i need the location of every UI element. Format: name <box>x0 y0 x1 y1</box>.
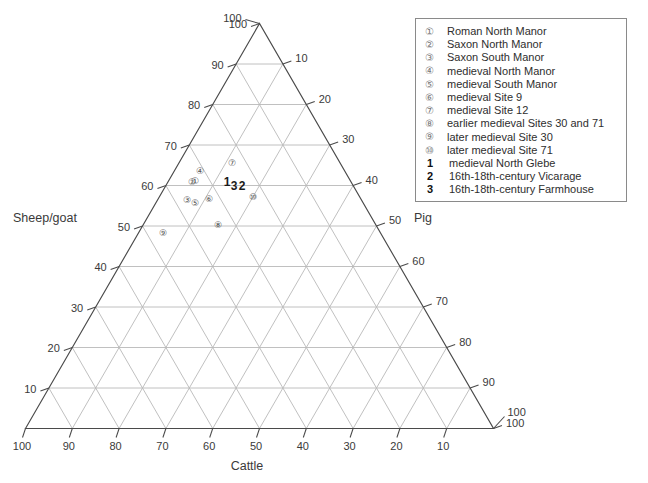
tick-label-pig-40: 40 <box>366 174 378 186</box>
legend-item: ⑤medieval South Manor <box>416 78 626 91</box>
point-7: ⑦ <box>228 158 236 168</box>
axis-title-cattle: Cattle <box>231 459 264 473</box>
point-bold-3: 3 <box>231 179 238 193</box>
tick-label-pig-60: 60 <box>412 255 424 267</box>
point-2: ② <box>188 177 196 187</box>
legend-label-3: Saxon South Manor <box>447 52 544 63</box>
legend-item: ②Saxon North Manor <box>416 38 626 51</box>
legend-item: ③Saxon South Manor <box>416 51 626 64</box>
legend-item: ⑦medieval Site 12 <box>416 104 626 117</box>
point-bold-1: 1 <box>224 175 231 189</box>
legend-label-8: earlier medieval Sites 30 and 71 <box>447 118 604 129</box>
tick-label-pig-20: 20 <box>319 93 331 105</box>
tick-label-sheepgoat-30: 30 <box>71 302 83 314</box>
gridlines <box>49 64 470 429</box>
legend-marker-4: ④ <box>425 66 447 76</box>
tick-label-pig-70: 70 <box>436 295 448 307</box>
legend-label-5: medieval South Manor <box>447 79 557 90</box>
ternary-plot-root: 1009080706050403020101020304050607080901… <box>0 0 648 483</box>
point-8: ⑧ <box>214 220 222 230</box>
tick-label-sheepgoat-90: 90 <box>211 59 223 71</box>
tick-label-cattle-20: 20 <box>390 440 402 452</box>
tick-label-pig-50: 50 <box>389 214 401 226</box>
axis-title-sheep-goat: Sheep/goat <box>13 211 77 225</box>
point-5: ⑤ <box>191 198 199 208</box>
legend-item: ①Roman North Manor <box>416 25 626 38</box>
tick-label-cattle-30: 30 <box>343 440 355 452</box>
tick-label-pig-80: 80 <box>459 336 471 348</box>
tick-label-sheepgoat-50: 50 <box>118 221 130 233</box>
legend-label-7: medieval Site 12 <box>447 105 528 116</box>
tick-label-sheepgoat-60: 60 <box>141 180 153 192</box>
tick-label-cattle-70: 70 <box>156 440 168 452</box>
tick-label-cattle-50: 50 <box>250 440 262 452</box>
legend-marker-1: ① <box>425 27 447 37</box>
legend-label-2: Saxon North Manor <box>447 39 542 50</box>
legend-marker-9: ⑨ <box>425 132 447 142</box>
tick-label-pig-100: 100 <box>506 417 524 429</box>
tick-label-cattle-90: 90 <box>63 440 75 452</box>
tick-label-sheepgoat-apex-100: 100 <box>223 12 241 24</box>
legend-marker-2: ② <box>425 40 447 50</box>
legend-item: 216th-18th-century Vicarage <box>416 170 626 183</box>
tick-label-cattle-40: 40 <box>297 440 309 452</box>
tick-label-sheepgoat-20: 20 <box>48 342 60 354</box>
legend-item: ⑧earlier medieval Sites 30 and 71 <box>416 117 626 130</box>
legend-marker-3: ③ <box>425 53 447 63</box>
tick-label-pig-90: 90 <box>483 376 495 388</box>
legend-item: ④medieval North Manor <box>416 65 626 78</box>
tick-label-sheepgoat-10: 10 <box>24 383 36 395</box>
point-4: ④ <box>196 166 204 176</box>
point-10: ⑩ <box>249 192 257 202</box>
point-bold-2: 2 <box>239 179 246 193</box>
legend-marker-5: ⑤ <box>425 80 447 90</box>
tick-label-cattle-80: 80 <box>109 440 121 452</box>
legend-item: ⑩later medieval Site 71 <box>416 144 626 157</box>
legend-label-11: medieval North Glebe <box>449 158 555 169</box>
legend-item: 316th-18th-century Farmhouse <box>416 183 626 196</box>
legend-label-10: later medieval Site 71 <box>447 145 553 156</box>
legend-marker-12: 2 <box>425 171 449 182</box>
legend-item: ⑨later medieval Site 30 <box>416 131 626 144</box>
legend-label-12: 16th-18th-century Vicarage <box>449 171 582 182</box>
point-9: ⑨ <box>159 228 167 238</box>
legend-label-4: medieval North Manor <box>447 66 555 77</box>
tick-label-sheepgoat-70: 70 <box>165 140 177 152</box>
legend-marker-8: ⑧ <box>425 119 447 129</box>
tick-label-pig-10: 10 <box>295 52 307 64</box>
legend: ①Roman North Manor②Saxon North Manor③Sax… <box>415 18 627 202</box>
tick-label-cattle-100: 100 <box>13 440 31 452</box>
legend-marker-11: 1 <box>425 158 449 169</box>
tick-label-cattle-10: 10 <box>437 440 449 452</box>
legend-marker-13: 3 <box>425 184 449 195</box>
legend-label-9: later medieval Site 30 <box>447 132 553 143</box>
legend-label-6: medieval Site 9 <box>447 92 522 103</box>
tick-label-cattle-60: 60 <box>203 440 215 452</box>
legend-label-13: 16th-18th-century Farmhouse <box>449 184 594 195</box>
tick-label-pig-30: 30 <box>342 133 354 145</box>
axis-title-pig: Pig <box>414 211 432 225</box>
tick-label-sheepgoat-40: 40 <box>94 261 106 273</box>
legend-marker-6: ⑥ <box>425 93 447 103</box>
point-3: ③ <box>183 195 191 205</box>
point-6: ⑥ <box>205 194 213 204</box>
tick-label-sheepgoat-80: 80 <box>188 99 200 111</box>
legend-item: ⑥medieval Site 9 <box>416 91 626 104</box>
tick-label-pig-corner-100: 100 <box>508 406 526 418</box>
legend-item: 1medieval North Glebe <box>416 157 626 170</box>
legend-marker-10: ⑩ <box>425 146 447 156</box>
legend-label-1: Roman North Manor <box>447 26 547 37</box>
legend-marker-7: ⑦ <box>425 106 447 116</box>
